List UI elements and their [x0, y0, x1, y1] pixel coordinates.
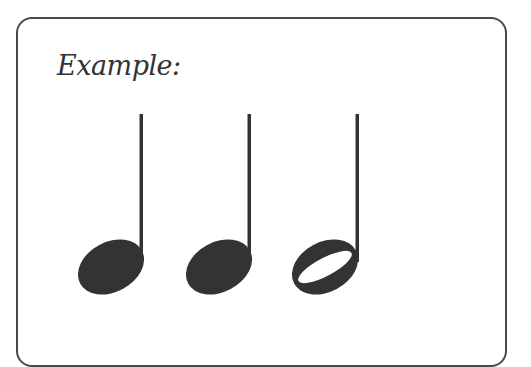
- half-note-icon: [282, 114, 367, 306]
- quarter-note-icon: [68, 114, 153, 306]
- quarter-note-icon: [176, 114, 261, 306]
